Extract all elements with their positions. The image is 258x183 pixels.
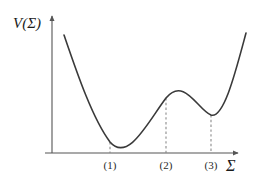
potential-curve [64,33,246,148]
potential-figure: V(Σ) Σ (1) (2) (3) [0,0,258,183]
tick-label-1: (1) [104,160,117,171]
tick-label-3: (3) [205,160,218,171]
y-axis-label: V(Σ) [13,16,41,31]
x-axis-label: Σ [226,158,236,174]
tick-label-2: (2) [160,160,173,171]
